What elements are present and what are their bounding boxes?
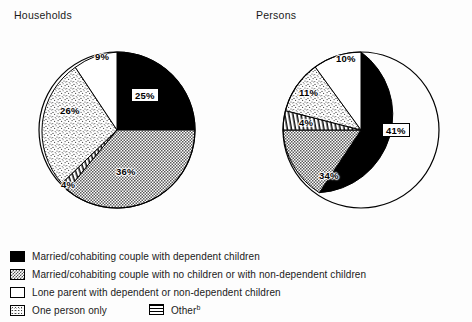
chart-title-households: Households: [14, 9, 72, 21]
legend-row-bottom: One person only Otherb: [10, 302, 462, 318]
slice-label-households-4: 4%: [61, 179, 75, 190]
pie-svg-persons: [258, 27, 464, 233]
slice-label-households-9: 9%: [95, 51, 109, 62]
chart-title-persons: Persons: [256, 9, 296, 21]
slice-label-persons-10: 10%: [336, 53, 356, 64]
legend-item-other: Otherb: [149, 304, 201, 316]
legend-label-other: Otherb: [171, 304, 201, 316]
legend-label-other-text: Other: [171, 305, 197, 316]
legend-swatch-stipple-icon: [10, 305, 25, 316]
legend-footnote-marker-other: b: [196, 304, 200, 311]
slice-label-persons-11: 11%: [299, 87, 318, 98]
legend-swatch-horizontal-lines-icon: [149, 304, 164, 315]
slice-label-households-36: 36%: [116, 166, 136, 177]
slice-label-households-25: 25%: [131, 88, 159, 102]
legend-item-lone-parent: Lone parent with dependent or non-depend…: [10, 284, 462, 300]
pie-chart-persons: 41% 34% 4% 11% 10%: [258, 27, 464, 233]
legend-label-married-no-dependent: Married/cohabiting couple with no childr…: [32, 269, 366, 280]
pie-svg-households: [38, 27, 196, 233]
legend-label-one-person: One person only: [32, 305, 107, 316]
legend: Married/cohabiting couple with dependent…: [10, 248, 462, 320]
legend-label-lone-parent: Lone parent with dependent or non-depend…: [32, 287, 281, 298]
slice-label-persons-34: 34%: [319, 170, 339, 181]
legend-item-married-dependent: Married/cohabiting couple with dependent…: [10, 248, 462, 264]
slice-label-households-26: 26%: [60, 105, 80, 116]
slice-label-persons-4: 4%: [299, 117, 313, 128]
legend-item-one-person: One person only: [10, 305, 107, 316]
pie-chart-households: 25% 36% 4% 26% 9%: [38, 27, 196, 233]
legend-label-married-dependent: Married/cohabiting couple with dependent…: [32, 251, 260, 262]
legend-swatch-checker-icon: [10, 269, 25, 280]
legend-swatch-solid-black-icon: [10, 251, 25, 262]
slice-label-persons-41: 41%: [382, 123, 410, 137]
legend-item-married-no-dependent: Married/cohabiting couple with no childr…: [10, 266, 462, 282]
legend-swatch-white-icon: [10, 287, 25, 298]
